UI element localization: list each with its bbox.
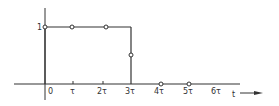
sample-point-4 <box>159 82 163 86</box>
x-tick-label-3tau: 3τ <box>125 87 135 96</box>
x-tick-label-tau: τ <box>70 87 75 96</box>
arrow-right-icon <box>254 91 263 95</box>
x-axis-label: t <box>232 90 235 99</box>
y-tick-label-1: 1 <box>37 23 42 32</box>
x-tick-label-6tau: 6τ <box>211 87 221 96</box>
sample-point-0 <box>43 25 47 29</box>
sample-point-3 <box>129 53 133 57</box>
sample-point-1 <box>70 25 74 29</box>
x-tick-label-5tau: 5τ <box>183 87 193 96</box>
x-tick-label-2tau: 2τ <box>97 87 107 96</box>
x-tick-label-0: 0 <box>48 87 53 96</box>
x-tick-label-4tau: 4τ <box>154 87 164 96</box>
sample-point-5 <box>187 82 191 86</box>
pulse-chart: 1 0 τ 2τ 3τ 4τ 5τ 6τ t <box>0 0 279 106</box>
sample-point-2 <box>104 25 108 29</box>
